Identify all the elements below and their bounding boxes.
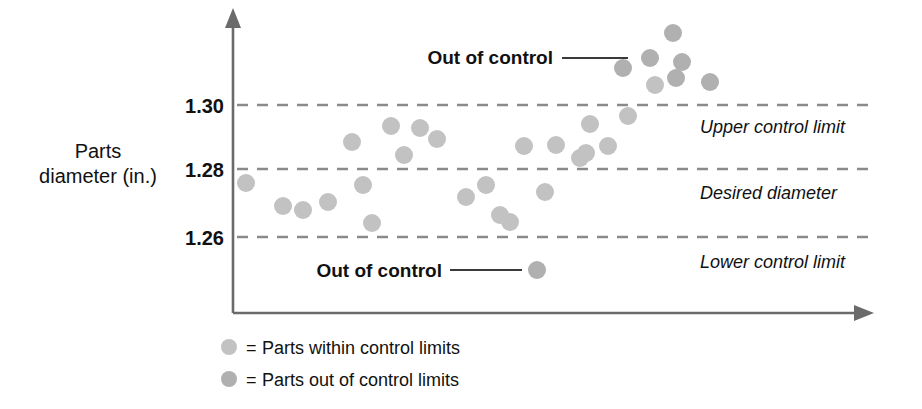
y-tick-label-128: 1.28 <box>185 159 224 181</box>
data-point-within-limits <box>237 174 255 192</box>
legend-marker-within-limits <box>221 339 237 355</box>
legend-equals-1: = <box>246 370 257 390</box>
y-axis-up-arrow-icon <box>225 8 241 28</box>
data-point-within-limits <box>619 107 637 125</box>
legend-equals-0: = <box>246 338 257 358</box>
data-point-within-limits <box>411 119 429 137</box>
legend-label-out-of-limits: Parts out of control limits <box>262 370 459 390</box>
data-point-within-limits <box>577 144 595 162</box>
data-point-within-limits <box>501 213 519 231</box>
data-point-within-limits <box>599 137 617 155</box>
annotation-out-of-control-upper-label: Out of control <box>427 47 553 68</box>
y-tick-label-130: 1.30 <box>185 95 224 117</box>
y-axis-title-line2: diameter (in.) <box>39 165 157 187</box>
data-point-within-limits <box>457 188 475 206</box>
upper-control-limit-label: Upper control limit <box>700 117 846 137</box>
data-point-out-of-limits <box>664 24 682 42</box>
data-point-within-limits <box>395 146 413 164</box>
lower-control-limit-label: Lower control limit <box>700 252 846 272</box>
data-point-out-of-limits <box>528 261 546 279</box>
control-chart: 1.30 1.28 1.26 Parts diameter (in.) Uppe… <box>0 0 922 409</box>
desired-diameter-label: Desired diameter <box>700 183 838 203</box>
data-point-within-limits <box>294 201 312 219</box>
data-point-within-limits <box>547 136 565 154</box>
data-point-out-of-limits <box>667 69 685 87</box>
data-point-out-of-limits <box>701 73 719 91</box>
data-point-out-of-limits <box>614 59 632 77</box>
data-point-within-limits <box>343 133 361 151</box>
limit-labels: Upper control limit Desired diameter Low… <box>700 117 846 272</box>
data-point-within-limits <box>646 76 664 94</box>
y-axis-title-line1: Parts <box>75 140 122 162</box>
data-point-within-limits <box>274 197 292 215</box>
y-tick-labels: 1.30 1.28 1.26 <box>185 95 224 249</box>
data-point-within-limits <box>515 137 533 155</box>
data-point-within-limits <box>382 117 400 135</box>
data-points-within-limits <box>237 76 664 232</box>
data-point-within-limits <box>581 115 599 133</box>
data-point-within-limits <box>536 183 554 201</box>
legend-label-within-limits: Parts within control limits <box>262 338 460 358</box>
annotation-out-of-control-lower: Out of control <box>316 260 522 281</box>
annotation-out-of-control-upper: Out of control <box>427 47 628 68</box>
annotation-out-of-control-lower-label: Out of control <box>316 260 442 281</box>
data-point-out-of-limits <box>641 49 659 67</box>
data-point-within-limits <box>354 176 372 194</box>
y-tick-label-126: 1.26 <box>185 227 224 249</box>
legend: = Parts within control limits = Parts ou… <box>221 338 460 390</box>
legend-marker-out-of-limits <box>221 371 237 387</box>
data-point-out-of-limits <box>673 53 691 71</box>
data-point-within-limits <box>477 176 495 194</box>
data-point-within-limits <box>363 214 381 232</box>
data-point-within-limits <box>428 130 446 148</box>
y-axis-title: Parts diameter (in.) <box>39 140 157 187</box>
control-chart-plot: 1.30 1.28 1.26 Parts diameter (in.) Uppe… <box>0 0 922 409</box>
data-point-within-limits <box>319 193 337 211</box>
x-axis-right-arrow-icon <box>854 305 874 321</box>
